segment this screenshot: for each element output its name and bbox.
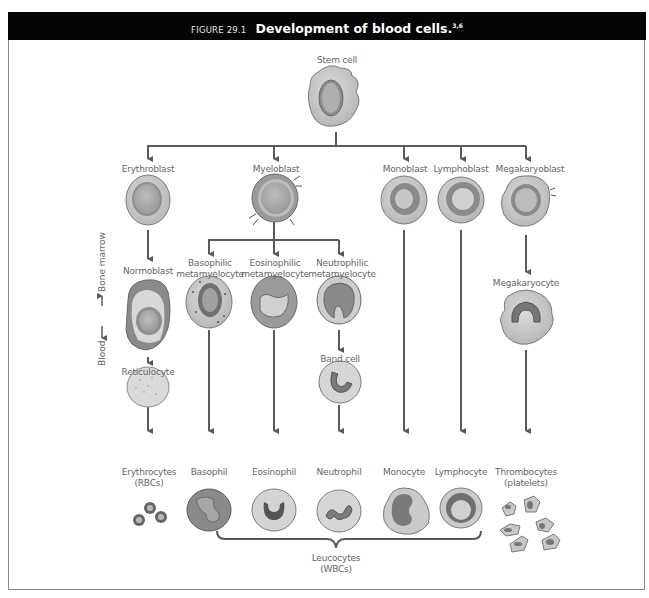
erythroblast-icon <box>126 175 170 225</box>
basophilic-metamyelocyte-icon <box>186 276 232 328</box>
megakaryocyte-icon <box>501 290 554 344</box>
label-blood: Blood <box>97 341 107 366</box>
lymphocyte-icon <box>440 488 482 528</box>
label-line-1: Thrombocytes <box>495 467 557 477</box>
label-neutrophilic-metamyelocyte: Neutrophilicmetamyelocyte <box>308 258 376 280</box>
label-thrombocytes: Thrombocytes(platelets) <box>495 467 557 489</box>
label-myeloblast: Myeloblast <box>253 164 300 175</box>
thrombocytes-icon <box>500 496 560 552</box>
label-reticulocyte: Reticulocyte <box>121 367 174 378</box>
eosinophil-icon <box>252 489 296 531</box>
label-eosinophil: Eosinophil <box>252 467 296 478</box>
label-line-1: Erythrocytes <box>122 467 177 477</box>
normoblast-icon <box>126 280 170 350</box>
label-megakaryocyte: Megakaryocyte <box>493 278 559 289</box>
label-monoblast: Monoblast <box>383 164 428 175</box>
monocyte-icon <box>384 488 430 534</box>
band-cell-icon <box>319 361 361 403</box>
label-band-cell: Band cell <box>320 354 360 365</box>
neutrophilic-metamyelocyte-icon <box>317 276 361 324</box>
stem-cell-icon <box>308 66 359 127</box>
basophil-icon <box>187 489 231 531</box>
label-eosinophilic-metamyelocyte: Eosinophilicmetamyelocyte <box>241 258 309 280</box>
myeloblast-icon <box>249 174 302 225</box>
label-line-2: metamyelocyte <box>176 269 244 279</box>
label-line-2: metamyelocyte <box>241 269 309 279</box>
label-line-2: (platelets) <box>504 478 548 488</box>
blood-cell-diagram <box>0 0 649 598</box>
label-line-2: (RBCs) <box>134 478 163 488</box>
erythrocytes-icon <box>133 502 167 526</box>
label-erythrocytes: Erythrocytes(RBCs) <box>122 467 177 489</box>
label-line-1: Neutrophilic <box>316 258 368 268</box>
label-line-2: metamyelocyte <box>308 269 376 279</box>
label-bone-marrow: Bone marrow <box>97 232 107 292</box>
label-megakaryoblast: Megakaryoblast <box>496 164 565 175</box>
label-line-1: Eosinophilic <box>249 258 300 268</box>
megakaryoblast-icon <box>502 176 557 227</box>
lymphoblast-icon <box>438 177 484 223</box>
label-basophilic-metamyelocyte: Basophilicmetamyelocyte <box>176 258 244 280</box>
eosinophilic-metamyelocyte-icon <box>251 276 297 328</box>
label-basophil: Basophil <box>191 467 228 478</box>
label-stem-cell: Stem cell <box>317 55 357 66</box>
monoblast-icon <box>381 176 427 224</box>
label-leucocytes: Leucocytes(WBCs) <box>312 553 361 575</box>
label-lymphoblast: Lymphoblast <box>434 164 489 175</box>
label-monocyte: Monocyte <box>383 467 425 478</box>
label-lymphocyte: Lymphocyte <box>435 467 488 478</box>
label-line-1: Leucocytes <box>312 553 361 563</box>
label-neutrophil: Neutrophil <box>317 467 362 478</box>
label-line-2: (WBCs) <box>320 564 352 574</box>
label-erythroblast: Erythroblast <box>122 164 175 175</box>
neutrophil-icon <box>317 490 361 532</box>
label-normoblast: Normoblast <box>123 266 173 277</box>
label-line-1: Basophilic <box>188 258 232 268</box>
